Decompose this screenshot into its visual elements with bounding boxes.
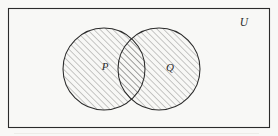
set-p-label: P xyxy=(101,60,109,72)
venn-diagram-canvas: U P Q xyxy=(0,0,278,136)
universal-set-label: U xyxy=(240,16,249,28)
venn-diagram-figure: U P Q xyxy=(0,0,278,136)
scan-artifact-line xyxy=(14,133,259,134)
set-q-label: Q xyxy=(166,61,174,73)
